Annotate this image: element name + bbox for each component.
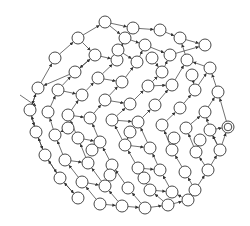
- state-node: [204, 62, 216, 74]
- transition-arrow: [176, 47, 199, 54]
- transition-arrow: [165, 61, 168, 67]
- transition-arrow: [131, 40, 139, 43]
- transition-arrow: [84, 139, 94, 141]
- transition-arrow: [80, 59, 90, 68]
- transition-arrow: [175, 66, 184, 80]
- state-node: [72, 192, 84, 204]
- state-node: [139, 202, 151, 214]
- state-node: [166, 144, 178, 156]
- state-node: [24, 104, 36, 116]
- state-node: [166, 79, 178, 91]
- transition-arrow: [93, 124, 98, 136]
- transition-arrow: [208, 97, 214, 107]
- transition-arrow: [139, 28, 154, 29]
- state-node: [52, 84, 64, 96]
- state-node: [104, 169, 116, 181]
- state-node: [212, 86, 224, 98]
- transition-arrow: [69, 165, 78, 177]
- state-node: [49, 52, 61, 64]
- transition-arrow: [178, 195, 183, 197]
- transition-arrow: [118, 120, 132, 121]
- transition-arrow: [220, 98, 227, 121]
- state-node: [174, 32, 186, 44]
- state-node: [174, 102, 186, 114]
- transition-arrow: [82, 42, 90, 50]
- state-node: [132, 116, 144, 128]
- transition-arrow: [50, 118, 53, 129]
- state-node: [62, 122, 74, 134]
- transition-arrow: [189, 134, 194, 146]
- state-node: [214, 144, 226, 156]
- transition-arrow: [32, 116, 35, 126]
- transition-arrow: [57, 141, 62, 154]
- state-node: [32, 82, 44, 94]
- transition-arrow: [207, 118, 209, 124]
- transition-arrow: [216, 128, 222, 129]
- transition-arrow: [103, 148, 109, 160]
- state-node: [186, 69, 198, 81]
- transition-arrow: [153, 154, 158, 165]
- transition-arrow: [60, 42, 74, 54]
- transition-arrow: [109, 87, 117, 96]
- state-node: [99, 180, 111, 192]
- transition-arrow: [141, 128, 148, 143]
- state-node: [146, 52, 158, 64]
- transition-arrow: [62, 77, 70, 86]
- transition-arrow: [211, 156, 217, 165]
- transition-arrow: [156, 191, 166, 192]
- transition-arrow: [182, 44, 185, 54]
- state-node: [54, 172, 66, 184]
- transition-arrow: [86, 187, 96, 199]
- transition-arrow: [200, 157, 205, 165]
- diagram-canvas: [0, 0, 250, 226]
- state-node: [62, 109, 74, 121]
- state-node: [181, 54, 193, 66]
- state-node: [116, 200, 128, 212]
- state-node: [119, 139, 131, 151]
- transition-arrow: [198, 73, 206, 85]
- transition-arrow: [131, 146, 144, 148]
- state-node: [168, 132, 180, 144]
- state-node: [190, 146, 202, 158]
- transition-arrow: [50, 96, 55, 107]
- state-node: [199, 39, 211, 51]
- state-node: [138, 172, 150, 184]
- transition-arrow: [198, 175, 204, 185]
- state-node: [86, 144, 98, 156]
- transition-arrow: [155, 194, 163, 201]
- state-node: [124, 126, 136, 138]
- state-node: [119, 32, 131, 44]
- transition-arrow: [115, 126, 122, 140]
- transition-arrow: [152, 77, 157, 82]
- transition-arrow: [92, 168, 102, 181]
- state-node: [180, 122, 192, 134]
- state-node: [84, 112, 96, 124]
- transition-arrow: [163, 176, 169, 187]
- state-node: [49, 129, 61, 141]
- state-node: [202, 164, 214, 176]
- state-node: [112, 44, 124, 56]
- state-node: [30, 126, 42, 138]
- transition-arrow: [83, 25, 99, 35]
- transition-arrow: [74, 116, 84, 117]
- transition-arrow: [102, 64, 112, 73]
- transition-arrow: [166, 32, 174, 35]
- state-node: [166, 186, 178, 198]
- transition-arrow: [109, 191, 118, 201]
- transition-arrow: [32, 94, 36, 104]
- state-node: [94, 198, 106, 210]
- transition-arrow: [126, 67, 134, 77]
- state-node: [156, 66, 168, 78]
- transition-arrow: [213, 136, 217, 145]
- transition-arrow: [159, 90, 168, 100]
- accepting-state-inner-ring: [224, 123, 232, 131]
- transition-arrow: [140, 51, 143, 57]
- state-node: [194, 134, 206, 146]
- transition-arrow: [111, 101, 124, 103]
- state-node: [122, 182, 134, 194]
- transition-arrow: [174, 202, 182, 204]
- transition-arrow: [106, 205, 116, 206]
- transition-arrow: [184, 95, 191, 103]
- state-node: [116, 76, 128, 88]
- transition-arrow: [142, 110, 150, 118]
